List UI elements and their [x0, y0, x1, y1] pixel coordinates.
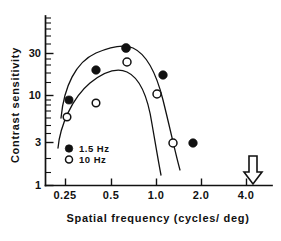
y-tick-label: 1 [35, 179, 41, 191]
x-tick-label: 4.0 [238, 189, 255, 201]
x-tick-label: 0.25 [53, 189, 76, 201]
x-tick-label: 1.0 [148, 189, 165, 201]
legend: 1.5 Hz 10 Hz [65, 143, 109, 165]
data-point [153, 90, 161, 98]
y-tick-label: 10 [29, 89, 41, 101]
data-point [169, 139, 177, 147]
data-point [65, 96, 73, 104]
fit-curve-10hz [58, 70, 161, 175]
legend-label-10hz: 10 Hz [79, 154, 106, 165]
data-point [92, 66, 101, 75]
data-point [92, 99, 100, 107]
y-tick-labels: 30 10 3 1 [29, 47, 41, 191]
figure-container: 30 10 3 1 0.25 0.5 1.0 2.0 4.0 Spatial f… [0, 0, 281, 241]
data-point [122, 44, 131, 53]
series-10hz-points [63, 58, 177, 147]
data-point [189, 139, 198, 148]
legend-marker-open-circle [66, 156, 73, 163]
legend-label-1.5hz: 1.5 Hz [79, 143, 109, 154]
x-tick-label: 0.5 [103, 189, 120, 201]
x-tick-label: 2.0 [193, 189, 210, 201]
y-axis-ticks [46, 18, 54, 186]
y-tick-label: 30 [29, 47, 41, 59]
series-1.5hz-points [65, 44, 197, 148]
data-point [159, 71, 168, 80]
x-axis-ticks [66, 179, 247, 186]
fit-curves [58, 46, 180, 175]
y-axis-title: Contrast sensitivity [9, 47, 21, 163]
x-axis-title: Spatial frequency (cycles/ deg) [66, 212, 249, 224]
data-point [63, 113, 71, 121]
y-tick-label: 3 [35, 136, 41, 148]
contrast-sensitivity-chart: 30 10 3 1 0.25 0.5 1.0 2.0 4.0 Spatial f… [0, 0, 281, 241]
data-point [123, 58, 131, 66]
legend-marker-filled-circle [65, 145, 73, 153]
x-tick-labels: 0.25 0.5 1.0 2.0 4.0 [53, 189, 254, 201]
